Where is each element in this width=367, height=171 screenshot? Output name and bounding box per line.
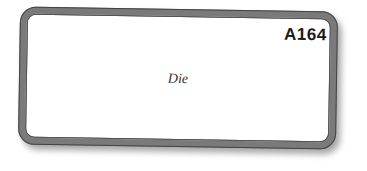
word-card: A164 Die	[18, 7, 338, 150]
card-code-label: A164	[284, 25, 327, 46]
card-word: Die	[26, 69, 330, 90]
